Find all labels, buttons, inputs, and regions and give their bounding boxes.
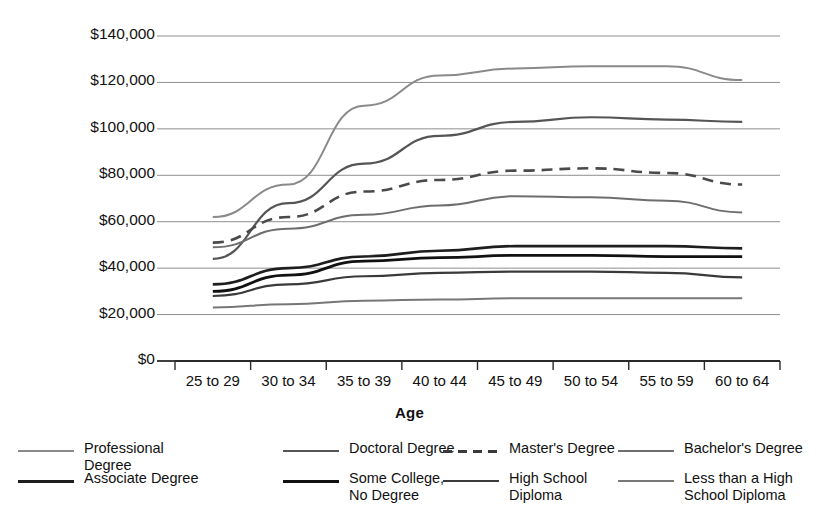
series-line — [213, 117, 742, 259]
x-axis-tick-label: 35 to 39 — [321, 372, 407, 389]
data-series-lines — [213, 66, 742, 307]
legend-item[interactable]: Less than a High School Diploma — [618, 470, 814, 496]
x-axis-tick-label: 45 to 49 — [472, 372, 558, 389]
x-axis-tick-label: 60 to 64 — [699, 372, 785, 389]
x-axis-ticks — [175, 361, 780, 370]
legend-line-swatch — [18, 480, 74, 483]
x-axis-tick-label: 25 to 29 — [170, 372, 256, 389]
legend-column: Bachelor's DegreeLess than a High School… — [618, 440, 814, 516]
legend-label: Doctoral Degree — [349, 440, 455, 457]
x-axis-tick-label: 50 to 54 — [548, 372, 634, 389]
x-axis-tick-label: 30 to 34 — [245, 372, 331, 389]
legend-line-swatch — [443, 450, 499, 453]
series-line — [213, 246, 742, 284]
legend-line-swatch — [443, 480, 499, 482]
legend-item[interactable]: Bachelor's Degree — [618, 440, 814, 466]
legend-line-swatch — [618, 450, 674, 452]
legend-item[interactable]: Master's Degree — [443, 440, 639, 466]
legend-line-swatch — [283, 480, 339, 483]
legend-line-swatch — [18, 450, 74, 452]
legend-label: High School Diploma — [509, 470, 587, 504]
legend-item[interactable]: High School Diploma — [443, 470, 639, 496]
series-line — [213, 66, 742, 217]
legend-line-swatch — [618, 480, 674, 482]
legend-column: Professional DegreeAssociate Degree — [18, 440, 214, 516]
legend: Professional DegreeAssociate DegreeDocto… — [18, 440, 808, 516]
legend-item[interactable]: Associate Degree — [18, 470, 214, 496]
legend-label: Professional Degree — [84, 440, 214, 474]
legend-label: Master's Degree — [509, 440, 615, 457]
legend-line-swatch — [283, 450, 339, 452]
series-line — [213, 168, 742, 242]
legend-column: Master's DegreeHigh School Diploma — [443, 440, 639, 516]
x-axis-tick-label: 40 to 44 — [397, 372, 483, 389]
legend-item[interactable]: Professional Degree — [18, 440, 214, 466]
series-line — [213, 298, 742, 307]
legend-label: Some College, No Degree — [349, 470, 444, 504]
legend-label: Associate Degree — [84, 470, 198, 487]
legend-label: Less than a High School Diploma — [684, 470, 793, 504]
median-earnings-by-age-line-chart: Median Earnings $140,000$120,000$100,000… — [0, 0, 819, 524]
gridlines — [157, 36, 780, 361]
x-axis-tick-label: 55 to 59 — [624, 372, 710, 389]
legend-label: Bachelor's Degree — [684, 440, 803, 457]
